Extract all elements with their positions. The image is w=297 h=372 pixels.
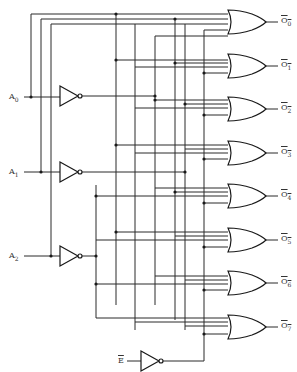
output-label-2: O2 bbox=[281, 104, 291, 114]
output-label-5: O5 bbox=[281, 235, 291, 245]
output-label-7: O7 bbox=[281, 322, 291, 332]
output-label-3: O3 bbox=[281, 148, 291, 158]
or-gate-7 bbox=[228, 315, 266, 339]
or-gates bbox=[228, 10, 266, 339]
input-label-enable: E bbox=[118, 357, 124, 365]
or-gate-4 bbox=[228, 184, 266, 208]
enable-line bbox=[127, 30, 228, 371]
or-gate-6 bbox=[228, 271, 266, 295]
gate-inputs bbox=[94, 58, 228, 335]
a0-line bbox=[24, 14, 228, 99]
a1-inverter bbox=[60, 162, 82, 182]
or-gate-0 bbox=[228, 10, 266, 34]
or-gate-2 bbox=[228, 97, 266, 121]
output-label-0: O0 bbox=[281, 17, 291, 27]
or-gate-5 bbox=[228, 228, 266, 252]
input-label-a1: A1 bbox=[9, 168, 19, 178]
or-gate-1 bbox=[228, 54, 266, 78]
input-label-a2: A2 bbox=[9, 252, 19, 262]
a2-line bbox=[24, 24, 228, 258]
decoder-circuit bbox=[0, 0, 297, 372]
a0-inverter bbox=[60, 86, 82, 106]
a2-inverter bbox=[60, 246, 82, 266]
output-label-1: O1 bbox=[281, 61, 291, 71]
output-label-6: O6 bbox=[281, 278, 291, 288]
output-lines bbox=[266, 22, 278, 327]
input-label-a0: A0 bbox=[9, 93, 19, 103]
output-label-4: O4 bbox=[281, 191, 291, 201]
or-gate-3 bbox=[228, 141, 266, 165]
